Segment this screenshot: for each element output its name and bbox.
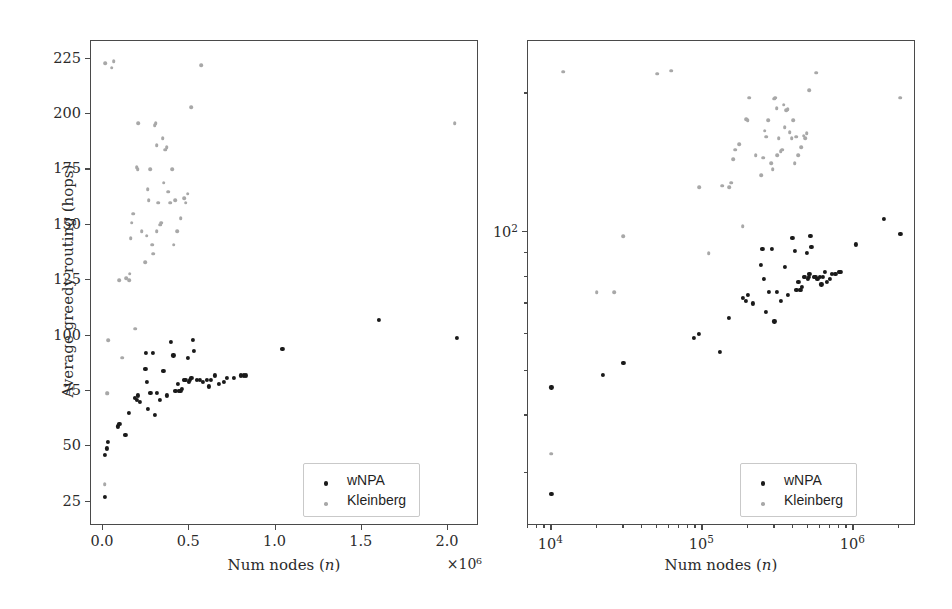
x-minor-tick-mark — [678, 525, 679, 528]
legend-label-wnpa: wNPA — [339, 472, 385, 488]
y-tick-label: 102 — [493, 222, 518, 241]
x-tick-label: 104 — [538, 533, 563, 552]
x-tick-label: 0.0 — [91, 533, 114, 549]
x-tick-label: 105 — [689, 533, 714, 552]
x-tick-mark — [102, 525, 103, 530]
x-minor-tick-mark — [622, 525, 623, 528]
x-minor-tick-mark — [536, 525, 537, 528]
x-tick-label: 1.5 — [349, 533, 372, 549]
left-x-axis-title: Num nodes (n) — [90, 556, 478, 574]
legend-marker-kleinberg-icon — [750, 491, 776, 510]
x-minor-tick-mark — [898, 525, 899, 528]
x-minor-tick-mark — [641, 525, 642, 528]
x-minor-tick-mark — [694, 525, 695, 528]
x-tick-label: 106 — [840, 533, 865, 552]
x-tick-mark — [275, 525, 276, 530]
x-tick-label: 2.0 — [435, 533, 458, 549]
x-minor-tick-mark — [807, 525, 808, 528]
x-minor-tick-mark — [792, 525, 793, 528]
x-tick-label: 1.0 — [263, 533, 286, 549]
legend-marker-wnpa-icon — [313, 471, 339, 490]
x-minor-tick-mark — [543, 525, 544, 528]
x-minor-tick-mark — [773, 525, 774, 528]
figure-canvas: 255075100125150175200225 0.00.51.01.52.0… — [0, 0, 952, 609]
right-panel: 102 104105106 Num nodes (n) wNPA Kleinbe… — [527, 40, 915, 525]
x-minor-tick-mark — [668, 525, 669, 528]
left-x-ticks: 0.00.51.01.52.0 — [90, 40, 478, 525]
left-y-axis-title: Average greedy routing (hops) — [59, 71, 77, 491]
x-tick-mark — [188, 525, 189, 530]
legend-label-kleinberg: Kleinberg — [776, 492, 843, 508]
x-minor-tick-mark — [829, 525, 830, 528]
x-tick-mark — [447, 525, 448, 530]
legend-item-kleinberg: Kleinberg — [750, 490, 843, 510]
legend-label-wnpa: wNPA — [776, 472, 822, 488]
y-tick-label: 225 — [53, 50, 81, 66]
x-tick-mark — [701, 525, 702, 530]
y-tick-label: 25 — [63, 493, 81, 509]
x-minor-tick-mark — [527, 525, 528, 528]
right-x-ticks: 104105106 — [527, 40, 915, 525]
x-minor-tick-mark — [747, 525, 748, 528]
legend-label-kleinberg: Kleinberg — [339, 492, 406, 508]
legend-item-wnpa: wNPA — [750, 470, 843, 490]
right-x-axis-title: Num nodes (n) — [527, 556, 915, 574]
x-tick-mark — [550, 525, 551, 530]
x-minor-tick-mark — [838, 525, 839, 528]
x-minor-tick-mark — [819, 525, 820, 528]
left-legend: wNPA Kleinberg — [303, 463, 420, 517]
right-legend: wNPA Kleinberg — [740, 463, 857, 517]
left-panel: 255075100125150175200225 0.00.51.01.52.0… — [90, 40, 478, 525]
x-minor-tick-mark — [687, 525, 688, 528]
legend-item-wnpa: wNPA — [313, 470, 406, 490]
legend-marker-wnpa-icon — [750, 471, 776, 490]
x-minor-tick-mark — [656, 525, 657, 528]
x-tick-label: 0.5 — [177, 533, 200, 549]
x-tick-mark — [852, 525, 853, 530]
x-minor-tick-mark — [845, 525, 846, 528]
x-tick-mark — [361, 525, 362, 530]
legend-marker-kleinberg-icon — [313, 491, 339, 510]
x-minor-tick-mark — [596, 525, 597, 528]
legend-item-kleinberg: Kleinberg — [313, 490, 406, 510]
left-x-offset-text: ×10⁶ — [447, 556, 482, 572]
